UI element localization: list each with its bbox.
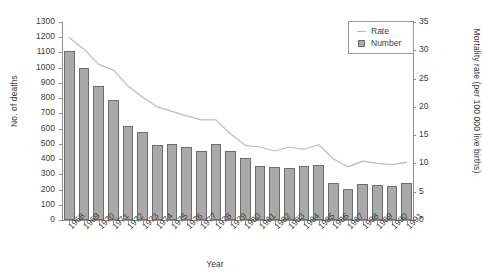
y-tick-label-left: 1200 <box>21 32 55 41</box>
x-tick <box>113 221 114 224</box>
x-tick <box>348 221 349 224</box>
y-tick-label-right: 30 <box>419 45 449 54</box>
y-tick-right <box>413 107 416 108</box>
y-tick-label-left: 400 <box>21 154 55 163</box>
y-tick-left <box>59 68 62 69</box>
y-tick-left <box>59 37 62 38</box>
x-tick <box>143 221 144 224</box>
y-tick-label-right: 10 <box>419 158 449 167</box>
x-tick <box>319 221 320 224</box>
bar-1976 <box>181 147 192 220</box>
x-tick <box>333 221 334 224</box>
x-tick <box>304 221 305 224</box>
x-tick <box>187 221 188 224</box>
x-tick <box>69 221 70 224</box>
bar-1974 <box>152 145 163 220</box>
x-tick <box>363 221 364 224</box>
y-tick-label-left: 300 <box>21 169 55 178</box>
y-tick-left <box>59 113 62 114</box>
legend-item-number: Number <box>354 37 409 49</box>
y-tick-left <box>59 205 62 206</box>
x-tick <box>392 221 393 224</box>
legend-label-number: Number <box>371 38 401 48</box>
y-tick-left <box>59 174 62 175</box>
y-tick-label-right: 25 <box>419 74 449 83</box>
x-tick <box>260 221 261 224</box>
square-key-icon <box>354 40 368 47</box>
y-tick-left <box>59 22 62 23</box>
bar-1979 <box>225 151 236 220</box>
x-tick <box>201 221 202 224</box>
y-tick-right <box>413 192 416 193</box>
bar-1970 <box>93 86 104 220</box>
x-tick <box>216 221 217 224</box>
y-tick-label-left: 900 <box>21 78 55 87</box>
y-tick-label-left: 600 <box>21 124 55 133</box>
y-tick-label-left: 100 <box>21 200 55 209</box>
y-tick-left <box>59 190 62 191</box>
x-tick <box>172 221 173 224</box>
y-tick-label-left: 200 <box>21 185 55 194</box>
y-tick-label-left: 1000 <box>21 63 55 72</box>
bar-1968 <box>64 51 75 220</box>
y-axis-left-line <box>62 22 63 221</box>
x-tick <box>289 221 290 224</box>
y-axis-left-title: No. of deaths <box>9 61 19 141</box>
y-tick-left <box>59 98 62 99</box>
y-tick-label-left: 500 <box>21 139 55 148</box>
y-tick-label-left: 800 <box>21 93 55 102</box>
x-tick <box>231 221 232 224</box>
y-tick-left <box>59 129 62 130</box>
bar-1972 <box>123 126 134 220</box>
x-tick <box>157 221 158 224</box>
y-tick-left <box>59 52 62 53</box>
x-tick <box>377 221 378 224</box>
y-tick-label-left: 700 <box>21 108 55 117</box>
y-tick-right <box>413 135 416 136</box>
y-tick-right <box>413 163 416 164</box>
bar-1973 <box>137 132 148 220</box>
y-tick-label-left: 1300 <box>21 17 55 26</box>
bar-1977 <box>196 151 207 220</box>
y-axis-right-title: Mortality rate (per 100 000 live births) <box>472 16 482 186</box>
bar-1971 <box>108 100 119 220</box>
y-tick-left <box>59 144 62 145</box>
y-tick-label-right: 35 <box>419 17 449 26</box>
x-tick <box>407 221 408 224</box>
y-tick-label-right: 5 <box>419 187 449 196</box>
y-tick-left <box>59 220 62 221</box>
x-tick <box>99 221 100 224</box>
y-tick-left <box>59 159 62 160</box>
bar-1978 <box>211 144 222 220</box>
y-tick-label-right: 15 <box>419 130 449 139</box>
y-tick-label-left: 0 <box>21 215 55 224</box>
x-tick <box>128 221 129 224</box>
bar-1975 <box>167 144 178 220</box>
x-axis-title: Year <box>0 259 430 269</box>
line-key-icon <box>354 31 368 32</box>
chart-legend: Rate Number <box>348 21 414 54</box>
x-tick <box>84 221 85 224</box>
legend-item-rate: Rate <box>354 25 409 37</box>
y-tick-left <box>59 83 62 84</box>
x-tick <box>245 221 246 224</box>
legend-label-rate: Rate <box>371 26 389 36</box>
y-tick-label-right: 20 <box>419 102 449 111</box>
y-tick-label-left: 1100 <box>21 47 55 56</box>
y-tick-right <box>413 79 416 80</box>
x-tick <box>275 221 276 224</box>
bar-1969 <box>79 68 90 220</box>
